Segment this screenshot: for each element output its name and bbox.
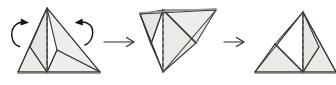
rotate-left-arrowhead <box>21 19 30 26</box>
diagram-canvas <box>0 0 336 85</box>
step-3-figure <box>255 12 336 73</box>
step-2-face-left-flap <box>140 10 163 44</box>
step-1-figure <box>18 8 100 73</box>
step-2-figure <box>140 9 216 72</box>
rotate-right-arrowhead <box>75 19 84 26</box>
arrow-step2-step3 <box>224 38 244 47</box>
rotate-left-arrow <box>12 19 29 47</box>
arrow-step1-step2 <box>104 38 134 47</box>
folding-diagram: Paper folding sequence Three-step origam… <box>0 0 336 85</box>
rotate-right-arrow <box>75 19 93 46</box>
